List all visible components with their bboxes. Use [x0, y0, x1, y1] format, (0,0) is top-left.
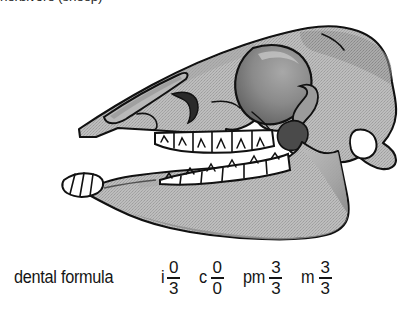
upper-tooth-row [155, 130, 274, 153]
dental-formula-row: dental formula i 0 3 c 0 0 pm [0, 252, 411, 304]
molar-lower-count: 3 [320, 279, 331, 297]
canine-lower-count: 0 [212, 279, 223, 297]
premolar-abbr: pm [243, 269, 265, 287]
premolar-fraction: 3 3 [269, 259, 282, 297]
dental-formula-premolars: pm 3 3 [243, 259, 283, 297]
incisor-lower-count: 3 [168, 279, 179, 297]
canine-abbr: c [199, 269, 207, 287]
incisor-upper-count: 0 [168, 259, 179, 277]
incisor-fraction: 0 3 [167, 259, 180, 297]
dental-formula-molars: m 3 3 [301, 259, 331, 297]
premolar-lower-count: 3 [270, 279, 281, 297]
dental-formula-label: dental formula [14, 269, 113, 287]
canine-upper-count: 0 [212, 259, 223, 277]
premolar-upper-count: 3 [270, 259, 281, 277]
molar-fraction: 3 3 [319, 259, 332, 297]
skull-svg [0, 2, 411, 252]
molar-upper-count: 3 [320, 259, 331, 277]
herbivore-skull-figure: herbivore (sheep) [0, 0, 411, 313]
mandible [84, 142, 349, 239]
incisor-abbr: i [161, 269, 164, 287]
lower-incisors [62, 173, 103, 197]
molar-abbr: m [301, 269, 314, 287]
dental-formula-incisors: i 0 3 [161, 259, 181, 297]
dental-formula-terms: i 0 3 c 0 0 pm 3 [161, 259, 332, 297]
dental-formula-canines: c 0 0 [199, 259, 223, 297]
occipital-condyle [350, 130, 376, 159]
skull-illustration [0, 2, 411, 252]
upper-tooth-row-base [155, 130, 274, 153]
canine-fraction: 0 0 [211, 259, 224, 297]
